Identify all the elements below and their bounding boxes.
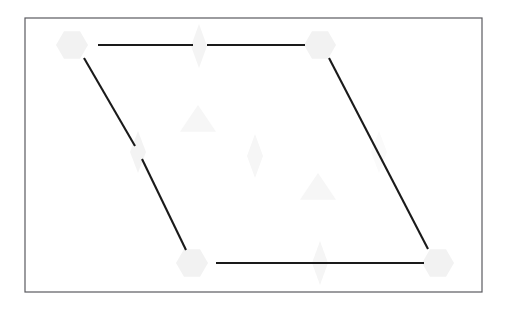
figure-container bbox=[0, 0, 510, 309]
geometry-figure bbox=[0, 0, 510, 309]
